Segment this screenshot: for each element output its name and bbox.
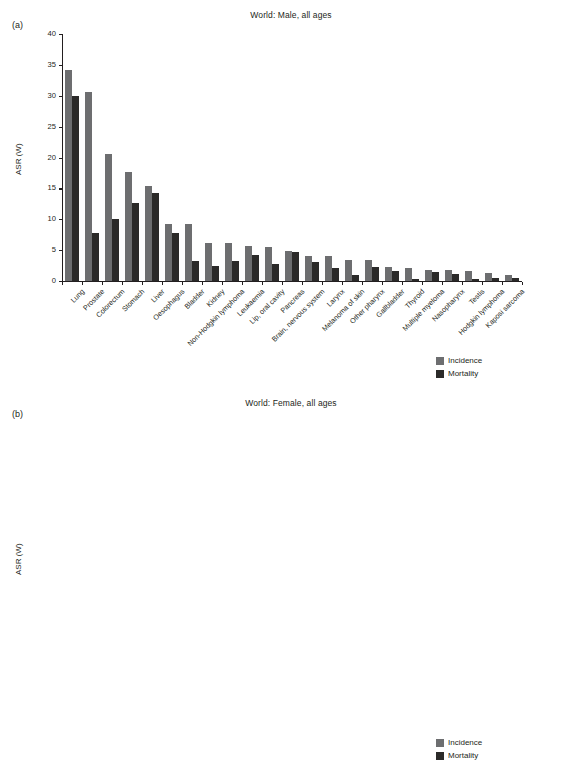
y-axis-tick-label: 10 bbox=[34, 215, 56, 223]
x-axis-tick bbox=[342, 282, 343, 285]
bar-incidence-8 bbox=[225, 243, 232, 281]
y-axis-tick-label: 30 bbox=[34, 92, 56, 100]
x-axis-tick bbox=[182, 282, 183, 285]
x-axis-tick bbox=[202, 282, 203, 285]
bar-mortality-5 bbox=[172, 233, 179, 281]
panel-a-tag: (a) bbox=[12, 20, 23, 30]
x-axis-tick bbox=[402, 282, 403, 285]
bar-mortality-9 bbox=[252, 255, 259, 281]
panel-a-y-axis-label: ASR (W) bbox=[14, 143, 23, 175]
x-axis-tick bbox=[162, 282, 163, 285]
x-axis-tick bbox=[262, 282, 263, 285]
x-axis-tick bbox=[222, 282, 223, 285]
bar-incidence-18 bbox=[425, 270, 432, 281]
bar-mortality-12 bbox=[312, 262, 319, 281]
y-axis-tick-label: 15 bbox=[34, 184, 56, 192]
bar-incidence-5 bbox=[165, 224, 172, 281]
bar-mortality-2 bbox=[112, 219, 119, 281]
bar-incidence-11 bbox=[285, 251, 292, 281]
bar-incidence-12 bbox=[305, 256, 312, 281]
x-axis-tick bbox=[382, 282, 383, 285]
bar-mortality-0 bbox=[72, 96, 79, 281]
x-axis-tick bbox=[422, 282, 423, 285]
x-axis-tick bbox=[102, 282, 103, 285]
bar-mortality-13 bbox=[332, 268, 339, 281]
bar-mortality-10 bbox=[272, 264, 279, 281]
legend-label-mortality: Mortality bbox=[448, 369, 478, 379]
bar-incidence-16 bbox=[385, 267, 392, 281]
legend-item-incidence: Incidence bbox=[436, 738, 482, 748]
y-axis-tick-label: 0 bbox=[34, 277, 56, 285]
bar-incidence-4 bbox=[145, 186, 152, 281]
bar-mortality-21 bbox=[492, 278, 499, 281]
bar-incidence-14 bbox=[345, 260, 352, 281]
y-axis-tick-label: 35 bbox=[34, 61, 56, 69]
bar-mortality-11 bbox=[292, 252, 299, 281]
x-axis-tick bbox=[362, 282, 363, 285]
y-axis-tick-label: 25 bbox=[34, 123, 56, 131]
legend-item-mortality: Mortality bbox=[436, 369, 482, 379]
panel-a-title: World: Male, all ages bbox=[0, 10, 582, 20]
bar-incidence-21 bbox=[485, 273, 492, 281]
bar-incidence-1 bbox=[85, 92, 92, 281]
bar-mortality-6 bbox=[192, 261, 199, 281]
panel-a-legend: Incidence Mortality bbox=[436, 356, 482, 382]
panel-male-chart: (a) World: Male, all ages ASR (W) 051015… bbox=[0, 0, 582, 390]
x-axis-tick bbox=[522, 282, 523, 285]
legend-label-incidence: Incidence bbox=[448, 356, 482, 366]
bar-mortality-14 bbox=[352, 275, 359, 281]
panel-b-tag: (b) bbox=[12, 409, 23, 419]
panel-b-title: World: Female, all ages bbox=[0, 398, 582, 408]
x-axis-tick bbox=[242, 282, 243, 285]
panel-b-legend: Incidence Mortality bbox=[436, 738, 482, 764]
bar-incidence-7 bbox=[205, 243, 212, 281]
bar-incidence-17 bbox=[405, 268, 412, 281]
x-axis-tick bbox=[122, 282, 123, 285]
bar-mortality-3 bbox=[132, 203, 139, 281]
x-axis-tick bbox=[62, 282, 63, 285]
panel-b-y-axis-label: ASR (W) bbox=[14, 543, 23, 575]
bar-mortality-15 bbox=[372, 267, 379, 281]
bar-incidence-9 bbox=[245, 246, 252, 281]
bar-incidence-19 bbox=[445, 270, 452, 281]
bar-incidence-13 bbox=[325, 256, 332, 281]
bar-mortality-1 bbox=[92, 233, 99, 281]
panel-female-chart: (b) World: Female, all ages ASR (W) 0510… bbox=[0, 390, 582, 778]
bar-mortality-16 bbox=[392, 271, 399, 281]
bar-mortality-7 bbox=[212, 266, 219, 281]
bar-incidence-3 bbox=[125, 172, 132, 281]
legend-item-mortality: Mortality bbox=[436, 751, 482, 761]
panel-a-plot-area: 0510152025303540LungProstateColorectumSt… bbox=[62, 34, 522, 281]
bar-mortality-8 bbox=[232, 261, 239, 281]
bar-mortality-4 bbox=[152, 193, 159, 281]
x-axis-tick bbox=[462, 282, 463, 285]
bar-incidence-2 bbox=[105, 154, 112, 281]
x-axis-tick bbox=[82, 282, 83, 285]
mortality-swatch-icon bbox=[436, 370, 444, 378]
bar-incidence-20 bbox=[465, 271, 472, 281]
y-axis-tick-label: 20 bbox=[34, 154, 56, 162]
bar-mortality-17 bbox=[412, 279, 419, 281]
bar-incidence-6 bbox=[185, 224, 192, 281]
mortality-swatch-icon bbox=[436, 752, 444, 760]
bars-layer bbox=[62, 34, 522, 281]
x-axis-tick bbox=[302, 282, 303, 285]
bar-incidence-10 bbox=[265, 247, 272, 281]
x-axis-tick bbox=[322, 282, 323, 285]
bar-incidence-15 bbox=[365, 260, 372, 281]
x-axis-tick bbox=[482, 282, 483, 285]
legend-label-incidence: Incidence bbox=[448, 738, 482, 748]
bar-mortality-20 bbox=[472, 279, 479, 281]
incidence-swatch-icon bbox=[436, 357, 444, 365]
incidence-swatch-icon bbox=[436, 739, 444, 747]
legend-label-mortality: Mortality bbox=[448, 751, 478, 761]
x-axis-tick bbox=[142, 282, 143, 285]
bar-mortality-18 bbox=[432, 272, 439, 281]
y-axis-tick-label: 40 bbox=[34, 30, 56, 38]
legend-item-incidence: Incidence bbox=[436, 356, 482, 366]
x-axis bbox=[62, 281, 522, 282]
x-axis-tick bbox=[502, 282, 503, 285]
bar-incidence-0 bbox=[65, 70, 72, 281]
bar-mortality-19 bbox=[452, 274, 459, 281]
x-axis-tick bbox=[282, 282, 283, 285]
